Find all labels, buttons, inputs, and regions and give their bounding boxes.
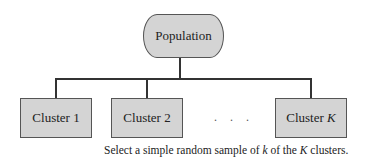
cluster-2-label: Cluster 2 <box>123 110 170 126</box>
population-label: Population <box>155 28 211 44</box>
cluster-1-label: Cluster 1 <box>32 110 79 126</box>
cluster-k-node: Cluster K <box>275 98 347 138</box>
cluster-1-node: Cluster 1 <box>20 98 92 138</box>
connector-cluster-k <box>310 78 312 98</box>
connector-cluster-2 <box>146 78 148 98</box>
connector-root-vertical <box>179 58 181 79</box>
cluster-2-node: Cluster 2 <box>111 98 183 138</box>
caption: Select a simple random sample of k of th… <box>104 144 348 156</box>
connector-cluster-1 <box>55 78 57 98</box>
ellipsis: . . . <box>214 110 254 125</box>
cluster-k-label: Cluster K <box>286 110 335 126</box>
connector-horizontal <box>55 78 312 80</box>
population-node: Population <box>143 14 224 58</box>
